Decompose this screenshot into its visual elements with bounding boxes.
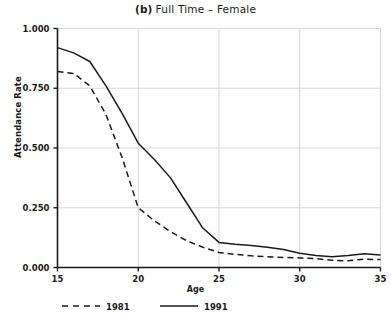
y-tick-label: 0.750 [23, 83, 50, 93]
axis-ticks: 0.0000.2500.5000.7501.0001520253035 [23, 24, 387, 284]
y-tick-label: 1.000 [23, 24, 50, 34]
plot-area: 0.0000.2500.5000.7501.0001520253035 1981… [0, 0, 391, 320]
x-tick-label: 30 [294, 274, 306, 284]
x-tick-label: 15 [52, 274, 64, 284]
x-tick-label: 35 [375, 274, 387, 284]
y-tick-label: 0.250 [23, 203, 50, 213]
x-tick-label: 25 [213, 274, 225, 284]
legend-label-1981: 1981 [106, 302, 130, 312]
y-tick-label: 0.500 [23, 143, 50, 153]
legend-label-1991: 1991 [204, 302, 228, 312]
grid-lines [58, 29, 381, 268]
y-tick-label: 0.000 [23, 263, 50, 273]
x-tick-label: 20 [132, 274, 144, 284]
chart-legend: 19811991 [62, 302, 228, 312]
chart-figure: (b)Full Time – Female Attendance Rate Ag… [0, 0, 391, 320]
